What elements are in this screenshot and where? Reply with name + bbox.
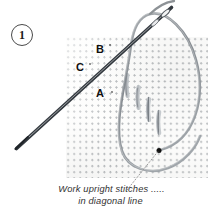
upright-stitch (158, 112, 160, 133)
point-label-c: C (76, 62, 84, 73)
caption-line-2: in diagonal line (0, 196, 219, 208)
step-number-label: 1 (19, 29, 25, 41)
diagram-artwork (0, 0, 219, 214)
marker-b (109, 44, 111, 46)
embroidery-thread (118, 13, 200, 171)
step-number-badge: 1 (11, 24, 33, 46)
embroidery-step-diagram: 1 B C A Work upright stitches ..... in d… (0, 0, 219, 214)
upright-stitch (137, 87, 139, 108)
caption-line-1: Work upright stitches ..... (0, 184, 219, 196)
point-label-b: B (96, 44, 104, 55)
upright-stitch (147, 99, 149, 120)
figure-caption: Work upright stitches ..... in diagonal … (0, 184, 219, 207)
marker-c (89, 63, 91, 65)
point-label-a: A (96, 88, 104, 99)
upright-stitch-group (126, 75, 159, 133)
sewing-needle (16, 8, 172, 150)
marker-a (111, 91, 113, 93)
needle-eye-lower (150, 18, 159, 27)
